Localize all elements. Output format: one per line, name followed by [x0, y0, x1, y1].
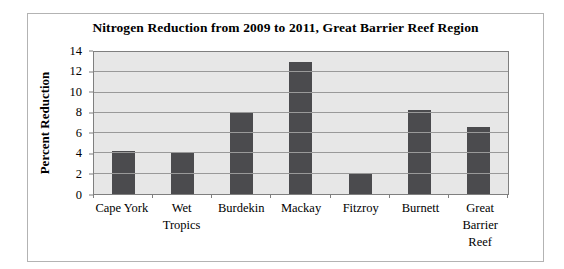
x-axis-tick-mark [270, 194, 271, 198]
gridline [94, 112, 508, 113]
x-axis-label: Wet Tropics [152, 200, 212, 251]
gridline [94, 132, 508, 133]
y-axis-tick-label: 6 [76, 127, 82, 140]
x-axis-tick-mark [330, 194, 331, 198]
bar-mackay [289, 62, 312, 194]
gridline [94, 92, 508, 93]
x-axis-tick-mark [389, 194, 390, 198]
chart-title: Nitrogen Reduction from 2009 to 2011, Gr… [28, 20, 543, 36]
x-axis-tick-mark [152, 194, 153, 198]
x-axis-tick-mark [93, 194, 94, 198]
x-axis-label: Burdekin [211, 200, 271, 251]
x-axis-label: Cape York [92, 200, 152, 251]
x-axis-label: Burnett [391, 200, 451, 251]
x-axis-tick-mark [448, 194, 449, 198]
bar-great-barrier-reef [467, 127, 490, 194]
plot-area [93, 51, 509, 195]
y-axis-tick-label: 14 [70, 45, 83, 58]
y-axis-tick-label: 12 [70, 65, 83, 78]
x-axis-labels: Cape YorkWet TropicsBurdekinMackayFitzro… [92, 200, 510, 251]
bar-wet-tropics [171, 153, 194, 194]
bar-fitzroy [349, 173, 372, 194]
x-axis-label: Mackay [271, 200, 331, 251]
gridline [94, 152, 508, 153]
y-axis-tick-label: 0 [76, 189, 82, 202]
x-axis-label: Great Barrier Reef [450, 200, 510, 251]
x-axis-tick-mark [507, 194, 508, 198]
figure: Nitrogen Reduction from 2009 to 2011, Gr… [0, 0, 564, 269]
gridline [94, 71, 508, 72]
y-axis: 02468101214 [28, 51, 93, 195]
chart-frame: Nitrogen Reduction from 2009 to 2011, Gr… [27, 13, 544, 262]
x-axis-label: Fitzroy [331, 200, 391, 251]
y-axis-tick-label: 8 [76, 106, 82, 119]
y-axis-tick-label: 4 [76, 148, 82, 161]
y-axis-tick-label: 10 [70, 86, 83, 99]
y-axis-tick-label: 2 [76, 168, 82, 181]
x-axis-tick-mark [211, 194, 212, 198]
gridline [94, 173, 508, 174]
